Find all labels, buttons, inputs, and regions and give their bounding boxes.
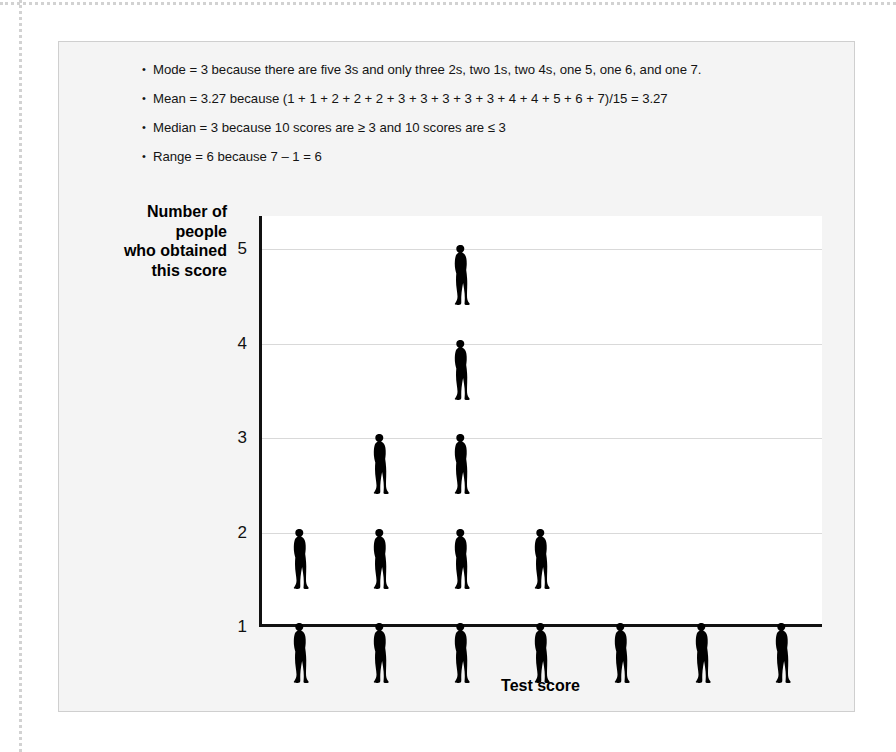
person-figure-score-3-1 bbox=[452, 622, 471, 684]
person-figure-score-2-2 bbox=[371, 528, 390, 590]
page-dotted-rule-top bbox=[0, 2, 896, 5]
pictogram-chart: Number of people who obtained this score… bbox=[59, 42, 856, 713]
person-figure-score-3-3 bbox=[452, 433, 471, 495]
page-dotted-rule-left bbox=[19, 0, 22, 752]
person-figure-score-3-4 bbox=[452, 339, 471, 401]
person-figure-score-2-3 bbox=[371, 433, 390, 495]
gridline-y-4 bbox=[262, 344, 822, 345]
person-figure-score-7-1 bbox=[773, 622, 792, 684]
person-figure-score-3-2 bbox=[452, 528, 471, 590]
person-figure-score-4-2 bbox=[532, 528, 551, 590]
person-figure-score-4-1 bbox=[532, 622, 551, 684]
person-figure-score-2-1 bbox=[371, 622, 390, 684]
y-tick-label-1: 1 bbox=[207, 618, 247, 635]
figure-panel: Mode = 3 because there are five 3s and o… bbox=[58, 41, 855, 712]
person-figure-score-3-5 bbox=[452, 244, 471, 306]
person-figure-score-5-1 bbox=[612, 622, 631, 684]
y-axis-title: Number of people who obtained this score bbox=[67, 202, 227, 280]
y-axis-title-line-1: Number of bbox=[67, 202, 227, 222]
y-tick-label-3: 3 bbox=[207, 429, 247, 446]
person-figure-score-1-2 bbox=[291, 528, 310, 590]
y-tick-label-2: 2 bbox=[207, 524, 247, 541]
y-axis-title-line-3: who obtained bbox=[67, 241, 227, 261]
person-figure-score-6-1 bbox=[693, 622, 712, 684]
gridline-y-3 bbox=[262, 438, 822, 439]
y-tick-label-4: 4 bbox=[207, 335, 247, 352]
y-axis-title-line-4: this score bbox=[67, 261, 227, 281]
y-axis-title-line-2: people bbox=[67, 222, 227, 242]
gridline-y-5 bbox=[262, 249, 822, 250]
y-tick-label-5: 5 bbox=[207, 240, 247, 257]
person-figure-score-1-1 bbox=[291, 622, 310, 684]
